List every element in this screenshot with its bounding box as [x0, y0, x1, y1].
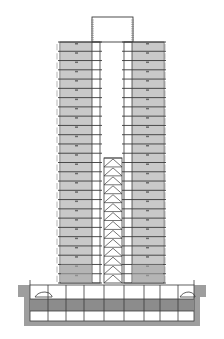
- basement-slab-band: [30, 299, 194, 311]
- window-mark: [146, 256, 149, 258]
- section-canvas: [0, 0, 224, 339]
- window-mark: [75, 173, 78, 175]
- window-mark: [75, 62, 78, 64]
- window-mark: [146, 154, 149, 156]
- window-mark: [146, 52, 149, 54]
- window-mark: [146, 99, 149, 101]
- window-mark: [75, 145, 78, 147]
- building-section-drawing: High-rise building section: [0, 0, 224, 339]
- window-mark: [146, 164, 149, 166]
- basement: [30, 280, 195, 321]
- window-mark: [146, 43, 149, 45]
- core-bracing: [104, 158, 122, 283]
- window-mark: [75, 256, 78, 258]
- window-mark: [75, 52, 78, 54]
- window-mark: [75, 191, 78, 193]
- window-mark: [75, 154, 78, 156]
- window-mark: [75, 136, 78, 138]
- podium-fill: [61, 264, 92, 283]
- window-mark: [146, 136, 149, 138]
- window-mark: [75, 89, 78, 91]
- left-tower: [57, 42, 102, 283]
- window-mark: [146, 145, 149, 147]
- window-mark: [146, 219, 149, 221]
- window-mark: [75, 238, 78, 240]
- window-mark: [146, 126, 149, 128]
- window-mark: [146, 71, 149, 73]
- window-mark: [146, 108, 149, 110]
- window-mark: [146, 80, 149, 82]
- window-mark: [146, 210, 149, 212]
- window-mark: [146, 173, 149, 175]
- window-mark: [75, 80, 78, 82]
- rooftop-frame: [92, 17, 133, 42]
- window-mark: [75, 43, 78, 45]
- window-mark: [75, 99, 78, 101]
- window-mark: [75, 201, 78, 203]
- window-mark: [146, 201, 149, 203]
- window-mark: [146, 89, 149, 91]
- window-mark: [146, 247, 149, 249]
- rooftop-cap: [91, 17, 134, 42]
- window-mark: [146, 117, 149, 119]
- window-mark: [75, 228, 78, 230]
- window-mark: [75, 247, 78, 249]
- window-mark: [75, 182, 78, 184]
- window-mark: [75, 108, 78, 110]
- window-mark: [75, 164, 78, 166]
- window-mark: [75, 117, 78, 119]
- window-mark: [146, 182, 149, 184]
- right-tower: [122, 42, 166, 283]
- podium-fill: [132, 264, 163, 283]
- window-mark: [75, 126, 78, 128]
- window-mark: [75, 219, 78, 221]
- window-mark: [146, 228, 149, 230]
- window-mark: [146, 62, 149, 64]
- window-mark: [146, 191, 149, 193]
- window-mark: [75, 210, 78, 212]
- window-mark: [75, 71, 78, 73]
- window-mark: [146, 238, 149, 240]
